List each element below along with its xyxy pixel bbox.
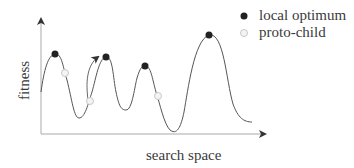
proto-child-marker — [155, 93, 162, 100]
fitness-curve — [41, 35, 252, 132]
legend-proto-child-label: proto-child — [259, 24, 326, 41]
legend-local-optimum-label: local optimum — [259, 7, 346, 24]
jump-arrow — [87, 57, 98, 100]
legend-local-optimum-icon — [241, 13, 248, 20]
x-axis-label: search space — [146, 147, 221, 164]
proto-child-marker — [62, 70, 69, 77]
local-optimum-marker — [103, 54, 110, 61]
legend-proto-child-icon — [241, 30, 248, 37]
y-axis-label: fitness — [16, 61, 33, 101]
local-optimum-marker — [52, 51, 59, 58]
local-optimum-marker — [142, 63, 149, 70]
local-optimum-marker — [206, 32, 213, 39]
proto-child-marker — [87, 98, 94, 105]
